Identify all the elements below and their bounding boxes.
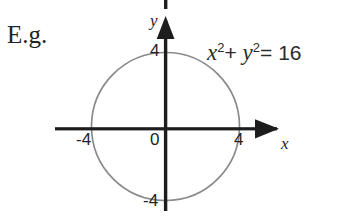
equation-term2-variable: y xyxy=(243,40,253,65)
x-axis-tick-label-positive-4: 4 xyxy=(234,131,243,148)
y-axis-arrowhead xyxy=(157,16,175,39)
equation-term2-exponent: 2 xyxy=(253,40,260,55)
origin-label: 0 xyxy=(150,131,159,148)
equation-annotation: x2+ y2= 16 xyxy=(207,41,301,64)
equation-equals-operator: = xyxy=(260,41,272,64)
x-axis-arrowhead xyxy=(255,119,279,138)
example-label: E.g. xyxy=(7,22,47,47)
x-axis-name-label: x xyxy=(281,135,289,152)
y-axis-line xyxy=(164,20,167,211)
equation-plus-operator: + xyxy=(224,41,236,64)
y-axis-top-stub xyxy=(164,0,167,9)
y-axis-tick-label-positive-4: 4 xyxy=(150,42,159,59)
y-axis-name-label: y xyxy=(150,12,158,29)
coordinate-plot xyxy=(0,0,352,220)
equation-term1-variable: x xyxy=(207,40,217,65)
x-axis-tick-label-negative-4: -4 xyxy=(76,131,91,148)
y-axis-tick-label-negative-4: -4 xyxy=(143,192,158,209)
figure-canvas: E.g. x2+ y2= 16 4 -4 4 -4 0 y x xyxy=(0,0,352,220)
equation-constant: 16 xyxy=(278,41,301,64)
